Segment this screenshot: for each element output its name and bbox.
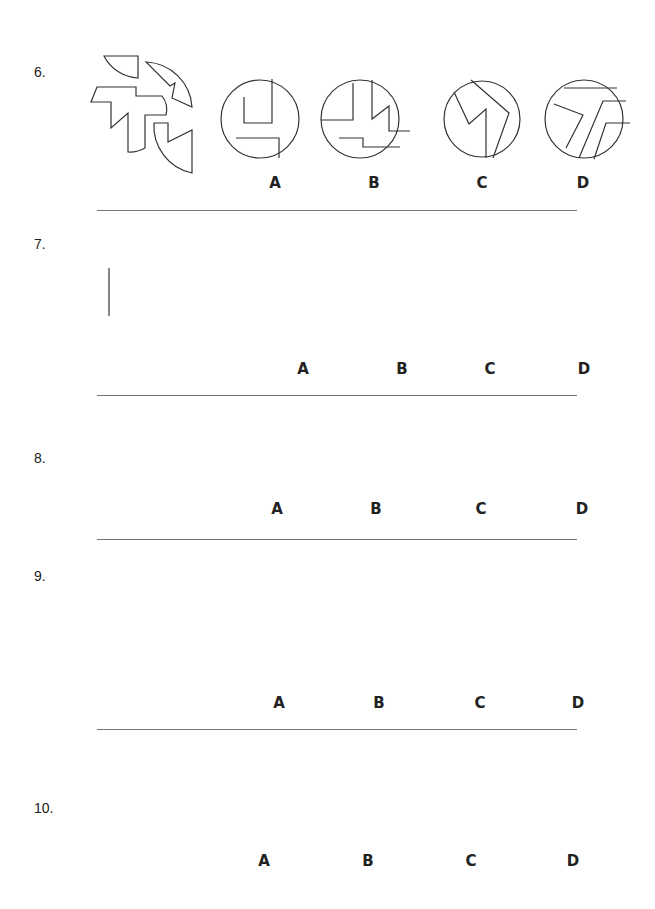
q6-option-b[interactable]	[321, 80, 410, 158]
q6-pieces	[91, 56, 192, 173]
q6-option-c[interactable]	[444, 80, 520, 158]
figures-canvas	[0, 0, 655, 909]
q6-option-d[interactable]	[545, 80, 630, 159]
q6-option-a[interactable]	[221, 79, 299, 158]
